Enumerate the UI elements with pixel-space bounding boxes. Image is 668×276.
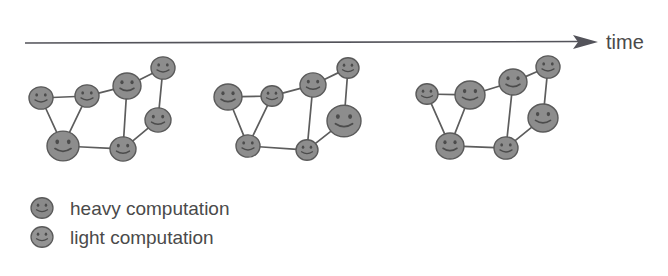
node-eye-right: [275, 92, 278, 95]
node-eye-left: [343, 64, 346, 67]
node-circle: [236, 135, 260, 157]
graph-node-heavy[interactable]: [436, 133, 464, 159]
node-eye-left: [81, 91, 84, 94]
graph-node-light[interactable]: [337, 58, 359, 78]
heavy-node-circle: [31, 198, 53, 218]
graph-node-light[interactable]: [300, 73, 326, 97]
node-eye-right: [547, 112, 550, 116]
node-circle: [29, 87, 53, 109]
graph-node-light[interactable]: [29, 87, 53, 109]
node-eye-left: [37, 204, 40, 207]
node-circle: [261, 86, 283, 106]
graph-node-light[interactable]: [151, 57, 175, 79]
node-eye-left: [55, 140, 59, 145]
node-eye-right: [45, 233, 48, 236]
node-circle: [436, 133, 464, 159]
node-eye-right: [45, 204, 48, 207]
node-eye-right: [67, 140, 71, 145]
node-eye-right: [474, 89, 477, 93]
node-eye-left: [242, 141, 245, 144]
node-eye-right: [251, 141, 254, 144]
node-eye-left: [463, 89, 466, 93]
graph-node-heavy[interactable]: [47, 131, 79, 161]
graph-node-heavy[interactable]: [455, 81, 485, 109]
node-circle: [455, 81, 485, 109]
node-eye-right: [130, 80, 133, 84]
node-eye-left: [536, 112, 539, 116]
time-axis-label: time: [606, 31, 644, 53]
node-eye-right: [516, 76, 519, 80]
node-eye-left: [267, 92, 270, 95]
node-circle: [47, 131, 79, 161]
node-eye-left: [152, 115, 155, 119]
node-circle: [536, 56, 560, 78]
node-circle: [214, 84, 242, 110]
node-eye-left: [336, 114, 340, 119]
graph-node-light[interactable]: [416, 84, 438, 104]
graph-node-light[interactable]: [296, 140, 318, 160]
node-eye-right: [348, 114, 352, 119]
node-eye-right: [231, 91, 234, 95]
node-eye-right: [316, 80, 319, 84]
graph-node-light[interactable]: [145, 108, 171, 132]
graph-node-light[interactable]: [536, 56, 560, 78]
graph-node-heavy[interactable]: [113, 73, 141, 99]
node-circle: [75, 85, 99, 107]
node-eye-right: [351, 64, 354, 67]
graph-node-light[interactable]: [261, 86, 283, 106]
node-eye-right: [310, 146, 313, 149]
node-eye-left: [542, 62, 545, 65]
node-eye-left: [35, 93, 38, 96]
node-eye-right: [90, 91, 93, 94]
graph-node-light[interactable]: [75, 85, 99, 107]
node-eye-left: [120, 80, 123, 84]
legend-item-label: heavy computation: [70, 198, 230, 219]
node-eye-right: [453, 140, 456, 144]
node-circle: [300, 73, 326, 97]
node-circle: [327, 105, 361, 137]
node-eye-left: [117, 144, 120, 148]
node-circle: [151, 57, 175, 79]
node-circle: [528, 104, 558, 132]
timeline-graph-figure: time heavy computationlight computation: [0, 0, 668, 276]
node-eye-right: [126, 144, 129, 148]
node-eye-right: [509, 143, 512, 146]
node-eye-left: [500, 143, 503, 146]
node-eye-right: [551, 62, 554, 65]
node-eye-left: [307, 80, 310, 84]
graph-node-heavy[interactable]: [499, 69, 527, 95]
light-node-circle: [31, 227, 53, 247]
graph-node-light[interactable]: [494, 137, 518, 159]
node-eye-left: [443, 140, 446, 144]
node-eye-left: [506, 76, 509, 80]
graph-edge: [52, 96, 76, 97]
graph-node-heavy[interactable]: [528, 104, 558, 132]
node-circle: [416, 84, 438, 104]
node-circle: [113, 73, 141, 99]
graph-node-light[interactable]: [236, 135, 260, 157]
node-eye-right: [430, 90, 433, 93]
node-eye-right: [166, 63, 169, 66]
node-circle: [494, 137, 518, 159]
legend-item-label: light computation: [70, 227, 214, 248]
node-circle: [145, 108, 171, 132]
graph-node-light[interactable]: [110, 137, 136, 161]
node-eye-left: [221, 91, 224, 95]
node-eye-left: [157, 63, 160, 66]
node-eye-left: [422, 90, 425, 93]
node-eye-right: [44, 93, 47, 96]
graph-edge: [463, 146, 495, 147]
node-eye-left: [302, 146, 305, 149]
node-circle: [337, 58, 359, 78]
node-eye-right: [161, 115, 164, 119]
node-circle: [296, 140, 318, 160]
graph-node-heavy[interactable]: [214, 84, 242, 110]
node-eye-left: [37, 233, 40, 236]
node-circle: [499, 69, 527, 95]
graph-node-heavy[interactable]: [327, 105, 361, 137]
node-circle: [110, 137, 136, 161]
